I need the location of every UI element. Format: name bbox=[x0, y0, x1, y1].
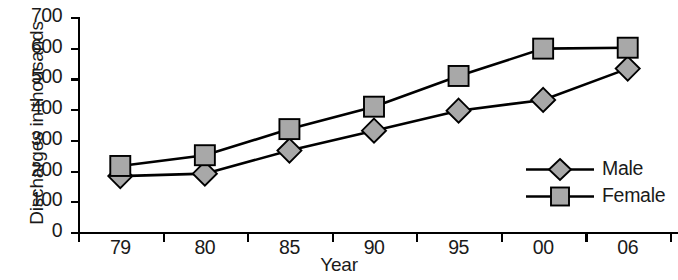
data-point-male-95[interactable] bbox=[447, 99, 471, 123]
diamond-marker-icon bbox=[524, 156, 596, 183]
data-point-female-06[interactable] bbox=[618, 38, 638, 58]
legend-label-female: Female bbox=[602, 184, 665, 207]
square-marker-icon bbox=[524, 183, 596, 210]
legend-label-male: Male bbox=[602, 157, 643, 180]
data-point-female-90[interactable] bbox=[364, 97, 384, 117]
data-point-male-90[interactable] bbox=[362, 119, 386, 143]
data-point-male-85[interactable] bbox=[277, 139, 301, 163]
data-point-female-79[interactable] bbox=[110, 156, 130, 176]
data-point-female-85[interactable] bbox=[279, 119, 299, 139]
data-point-female-95[interactable] bbox=[449, 66, 469, 86]
line-chart: Discharges in thousands Year 01002003004… bbox=[0, 0, 678, 280]
plot-area bbox=[0, 0, 678, 280]
data-point-female-00[interactable] bbox=[533, 39, 553, 59]
data-point-male-06[interactable] bbox=[616, 57, 640, 81]
data-point-female-80[interactable] bbox=[195, 145, 215, 165]
data-point-male-00[interactable] bbox=[531, 88, 555, 112]
